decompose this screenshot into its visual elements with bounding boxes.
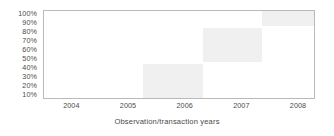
x-axis-tick-label: 2006 (176, 101, 192, 111)
x-axis-title: Observation/transaction years (0, 117, 334, 126)
step-block (143, 64, 203, 99)
y-axis-tick-label: 100% (18, 10, 37, 18)
y-axis-tick-label: 60% (22, 46, 37, 54)
y-axis-tick-label: 30% (22, 73, 37, 81)
y-axis-tick-label: 40% (22, 64, 37, 72)
y-axis-tick-label: 90% (22, 19, 37, 27)
x-axis-tick-label: 2004 (63, 101, 79, 111)
chart-figure: 100%90%80%70%60%50%40%30%20%10% 20042005… (0, 0, 334, 136)
y-axis-tick-labels: 100%90%80%70%60%50%40%30%20%10% (0, 10, 40, 99)
y-axis-tick-label: 50% (22, 55, 37, 63)
y-axis-tick-label: 20% (22, 82, 37, 90)
step-block (203, 28, 263, 62)
y-axis-tick-label: 10% (22, 91, 37, 99)
x-axis-tick-label: 2007 (233, 101, 249, 111)
step-block (262, 11, 315, 26)
x-axis-tick-labels: 20042005200620072008 (43, 101, 315, 113)
y-axis-tick-label: 70% (22, 37, 37, 45)
x-axis-tick-label: 2008 (290, 101, 306, 111)
x-axis-tick-label: 2005 (120, 101, 136, 111)
y-axis-tick-label: 80% (22, 28, 37, 36)
plot-area (43, 10, 315, 99)
